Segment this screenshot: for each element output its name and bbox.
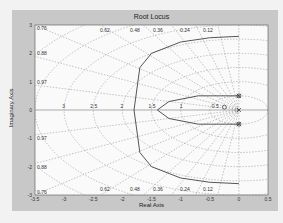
svg-text:2: 2 — [29, 50, 32, 56]
svg-text:-2: -2 — [120, 196, 125, 202]
svg-text:-1: -1 — [28, 135, 33, 141]
svg-text:0.36: 0.36 — [153, 186, 163, 192]
root-locus-plot: -3.5-3-2.5-2-1.5-1-0.500.53210-1-2-30.76… — [0, 0, 283, 223]
svg-text:0.62: 0.62 — [100, 27, 110, 33]
svg-text:0.76: 0.76 — [37, 189, 47, 195]
svg-text:1: 1 — [29, 79, 32, 85]
svg-text:2.5: 2.5 — [90, 103, 97, 109]
svg-text:0: 0 — [29, 107, 32, 113]
svg-text:0.12: 0.12 — [203, 186, 213, 192]
svg-text:0.36: 0.36 — [153, 27, 163, 33]
svg-text:-3: -3 — [62, 196, 67, 202]
svg-text:-2: -2 — [28, 164, 33, 170]
svg-text:-1: -1 — [178, 196, 183, 202]
svg-text:3: 3 — [29, 22, 32, 28]
svg-text:-1.5: -1.5 — [147, 196, 156, 202]
svg-text:0.12: 0.12 — [203, 27, 213, 33]
svg-text:0.97: 0.97 — [37, 135, 47, 141]
svg-text:0.88: 0.88 — [37, 50, 47, 56]
svg-text:0: 0 — [237, 196, 240, 202]
svg-text:-2.5: -2.5 — [89, 196, 98, 202]
svg-text:-0.5: -0.5 — [205, 196, 214, 202]
svg-text:-3.5: -3.5 — [31, 196, 40, 202]
svg-text:3: 3 — [62, 103, 65, 109]
svg-text:0.5: 0.5 — [265, 196, 272, 202]
svg-text:-3: -3 — [28, 192, 33, 198]
svg-text:0.88: 0.88 — [37, 164, 47, 170]
svg-text:1.5: 1.5 — [149, 103, 156, 109]
svg-text:0.24: 0.24 — [180, 186, 190, 192]
svg-text:0.24: 0.24 — [180, 27, 190, 33]
svg-text:0.48: 0.48 — [130, 27, 140, 33]
svg-text:2: 2 — [120, 103, 123, 109]
svg-text:0.5: 0.5 — [212, 103, 219, 109]
svg-text:1: 1 — [180, 103, 183, 109]
svg-text:0.97: 0.97 — [37, 79, 47, 85]
svg-text:0.76: 0.76 — [37, 25, 47, 31]
svg-text:0.62: 0.62 — [100, 186, 110, 192]
svg-text:0.48: 0.48 — [130, 186, 140, 192]
